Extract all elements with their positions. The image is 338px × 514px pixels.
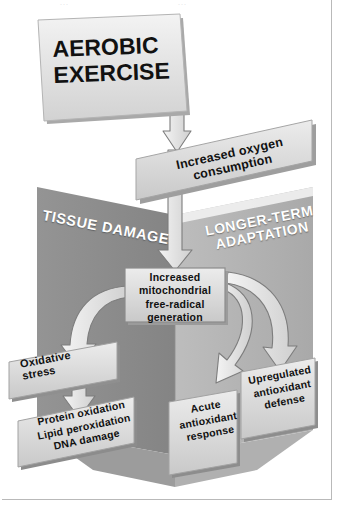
diagram-stage: ... ... [0, 0, 338, 514]
center-box-label: Increased mitochondrial free-radical gen… [125, 271, 225, 325]
arrow-exercise-to-oxygen [163, 111, 191, 152]
source-banner-label: AEROBIC EXERCISE [52, 31, 184, 88]
